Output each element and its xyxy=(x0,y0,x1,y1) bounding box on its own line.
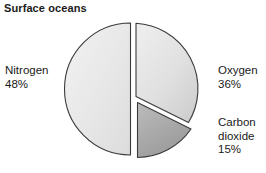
pie-label-oxygen: Oxygen 36% xyxy=(218,64,258,91)
pie-label-carbon-dioxide: Carbon dioxide 15% xyxy=(218,116,256,157)
pie-label-nitrogen: Nitrogen 48% xyxy=(5,64,48,91)
pie-slice-nitrogen[interactable] xyxy=(65,23,131,155)
pie-label-oxygen-name: Oxygen xyxy=(218,64,258,78)
pie-label-carbon-dioxide-name: Carbon xyxy=(218,116,256,130)
pie-label-nitrogen-name: Nitrogen xyxy=(5,64,48,78)
pie-label-oxygen-value: 36% xyxy=(218,78,258,92)
pie-label-carbon-dioxide-name-line2: dioxide xyxy=(218,130,256,144)
pie-label-carbon-dioxide-value: 15% xyxy=(218,143,256,157)
pie-label-nitrogen-value: 48% xyxy=(5,78,48,92)
